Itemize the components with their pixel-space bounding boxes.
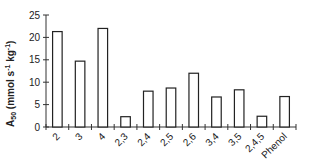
y-tick-label: 15 bbox=[29, 54, 41, 65]
x-tick-label: 3 bbox=[73, 130, 85, 142]
bar bbox=[257, 116, 267, 127]
bar bbox=[234, 90, 244, 127]
y-tick-label: 5 bbox=[34, 99, 40, 110]
y-tick-label: 20 bbox=[29, 32, 41, 43]
x-tick-label: 2,3 bbox=[112, 130, 130, 148]
x-tick-label: 2,5 bbox=[158, 130, 176, 148]
x-axis: 2342,32,42,52,63,43,52,4,5Phenol bbox=[46, 124, 296, 160]
y-tick-label: 10 bbox=[29, 77, 41, 88]
bars bbox=[53, 28, 290, 127]
x-tick-label: 2 bbox=[50, 130, 62, 142]
bar bbox=[144, 91, 154, 127]
y-tick-label: 0 bbox=[34, 122, 40, 133]
y-axis-label: A50 (mmol s-1 kg-1) bbox=[4, 41, 17, 127]
bar bbox=[189, 73, 199, 127]
bar bbox=[53, 32, 63, 127]
bar bbox=[121, 117, 131, 127]
x-tick-label: 4 bbox=[96, 130, 108, 142]
bar bbox=[212, 97, 222, 127]
x-tick-label: 2,6 bbox=[181, 130, 199, 148]
y-tick-label: 25 bbox=[29, 10, 41, 21]
bar bbox=[98, 28, 108, 127]
bar-chart: 0510152025 2342,32,42,52,63,43,52,4,5Phe… bbox=[0, 0, 312, 164]
y-axis: 0510152025 bbox=[29, 10, 49, 133]
bar bbox=[75, 61, 85, 127]
bar bbox=[166, 88, 176, 127]
bar bbox=[280, 97, 290, 127]
x-tick-label: 2,4 bbox=[135, 130, 153, 148]
x-tick-label: 3,5 bbox=[226, 130, 244, 148]
x-tick-label: Phenol bbox=[259, 131, 289, 161]
x-tick-label: 3,4 bbox=[203, 130, 221, 148]
